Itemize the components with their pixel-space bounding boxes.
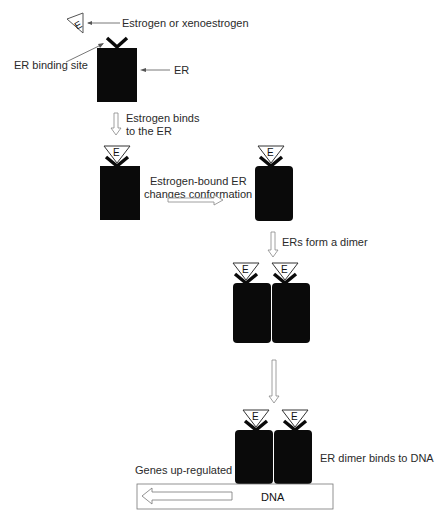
svg-text:E: E [267, 147, 274, 158]
step1-label-line2: to the ER [126, 125, 172, 137]
receptor-dimer-on-dna: E E [235, 410, 312, 484]
er-pathway-diagram: E Estrogen or xenoestrogen ER binding si… [0, 0, 438, 525]
free-estrogen-icon: E [67, 13, 84, 33]
svg-text:E: E [281, 264, 288, 275]
step4-label: ER dimer binds to DNA [320, 452, 434, 464]
svg-text:E: E [291, 411, 298, 422]
ligand-label: Estrogen or xenoestrogen [122, 17, 249, 29]
dna-strand [137, 484, 333, 509]
receptor-bound: E [100, 146, 140, 220]
genes-label: Genes up-regulated [135, 464, 232, 476]
svg-text:E: E [113, 147, 120, 158]
arrow-ligand-label [87, 21, 120, 25]
step1-label-line1: Estrogen binds [126, 112, 200, 124]
arrow-down-step3 [268, 232, 278, 257]
arrow-down-step1 [111, 113, 121, 135]
binding-site-icon [107, 38, 127, 47]
receptor-unbound [97, 38, 137, 102]
svg-text:E: E [252, 411, 259, 422]
step3-label: ERs form a dimer [282, 236, 368, 248]
dna-label: DNA [261, 491, 285, 503]
receptor-conformed: E [255, 146, 293, 221]
receptor-dimer: E E [233, 263, 310, 343]
binding-site-label: ER binding site [14, 59, 88, 71]
arrow-down-step4 [269, 360, 279, 403]
svg-text:E: E [242, 264, 249, 275]
step2-label-line1: Estrogen-bound ER [150, 175, 247, 187]
receptor-label: ER [174, 64, 189, 76]
